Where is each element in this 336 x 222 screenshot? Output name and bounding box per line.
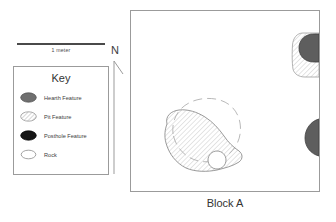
north-arrow: N <box>109 44 131 174</box>
hearth-feature-icon <box>20 92 37 103</box>
key-item-label: Rock <box>44 151 57 159</box>
key-item-label: Hearth Feature <box>44 94 82 102</box>
feature-hearth-east <box>305 119 319 156</box>
site-plan-figure: 1 meter Key Hearth Feature <box>0 0 336 222</box>
key-item-label: Posthole Feature <box>44 132 87 140</box>
key-item-rock: Rock <box>14 145 108 164</box>
key-item-label: Pit Feature <box>44 113 71 121</box>
scale-bar: 1 meter <box>17 43 105 54</box>
feature-pit-center <box>165 110 242 172</box>
key-item-pit-feature: Pit Feature <box>14 107 108 126</box>
feature-rock-center <box>208 151 226 169</box>
north-arrow-label: N <box>111 44 119 57</box>
block-a-map <box>130 10 320 192</box>
rock-icon <box>20 149 37 160</box>
key-item-list: Hearth Feature Pit Feature <box>14 88 108 164</box>
map-key: Key Hearth Feature <box>13 66 109 175</box>
key-item-hearth-feature: Hearth Feature <box>14 88 108 107</box>
posthole-feature-icon <box>20 130 37 141</box>
key-title: Key <box>14 72 108 85</box>
north-arrow-icon <box>109 44 131 174</box>
key-item-posthole-feature: Posthole Feature <box>14 126 108 145</box>
scale-bar-label: 1 meter <box>17 47 105 54</box>
pit-feature-icon <box>20 111 37 122</box>
scale-bar-line <box>17 43 105 45</box>
block-label: Block A <box>130 196 320 210</box>
